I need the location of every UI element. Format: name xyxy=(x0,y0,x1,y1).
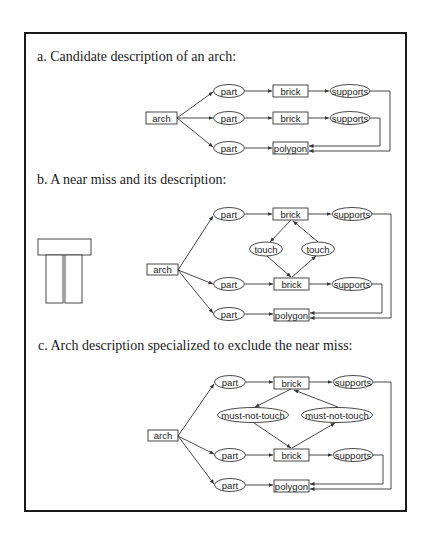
left-column xyxy=(46,255,63,303)
label-part: part xyxy=(221,279,238,290)
near-miss-picture xyxy=(38,239,91,303)
label-part: part xyxy=(222,377,239,388)
label-polygon: polygon xyxy=(275,310,308,321)
top-block xyxy=(38,239,91,255)
label-supports: supports xyxy=(335,450,372,461)
label-supports: supports xyxy=(332,113,369,124)
label-must-not-touch: must-not-touch xyxy=(305,410,368,421)
label-brick: brick xyxy=(281,378,301,389)
label-part: part xyxy=(221,209,238,220)
label-arch: arch xyxy=(154,430,172,441)
label-touch: touch xyxy=(254,244,277,255)
label-polygon: polygon xyxy=(275,481,308,492)
label-part: part xyxy=(221,113,238,124)
label-part: part xyxy=(222,480,239,491)
label-part: part xyxy=(221,143,238,154)
label-brick: brick xyxy=(280,113,300,124)
label-brick: brick xyxy=(281,279,301,290)
label-part: part xyxy=(221,86,238,97)
right-column xyxy=(65,255,82,303)
label-brick: brick xyxy=(280,209,300,220)
network-c xyxy=(148,376,391,493)
semantic-network-diagram: arch part part part brick brick polygon … xyxy=(0,0,424,534)
label-must-not-touch: must-not-touch xyxy=(221,410,284,421)
label-supports: supports xyxy=(334,209,371,220)
label-supports: supports xyxy=(332,86,369,97)
label-supports: supports xyxy=(334,279,371,290)
label-arch: arch xyxy=(153,264,171,275)
label-brick: brick xyxy=(280,86,300,97)
label-supports: supports xyxy=(335,377,372,388)
network-b xyxy=(147,208,391,322)
label-touch: touch xyxy=(306,244,329,255)
label-brick: brick xyxy=(281,450,301,461)
label-part: part xyxy=(221,309,238,320)
label-arch: arch xyxy=(152,113,170,124)
label-part: part xyxy=(222,450,239,461)
label-polygon: polygon xyxy=(274,143,307,154)
